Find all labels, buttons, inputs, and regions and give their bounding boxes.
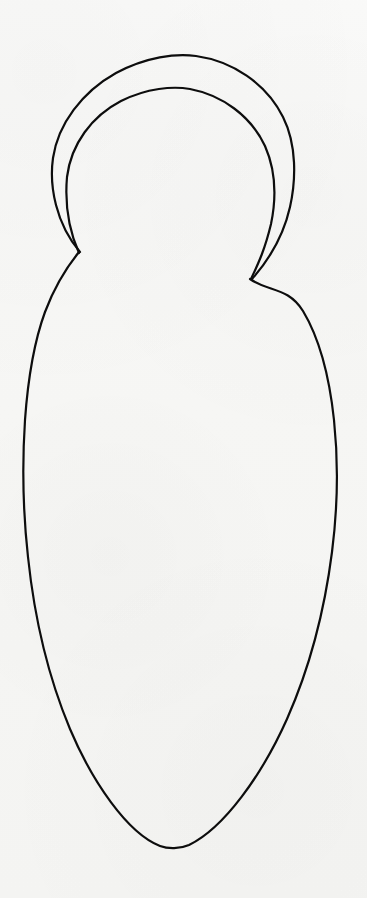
drawing-canvas: Hand-drawn figure outline: [0, 0, 367, 898]
inner-head-arc: [66, 88, 274, 279]
body-outline: [23, 252, 336, 848]
figure-line-drawing: Hand-drawn figure outline: [0, 0, 367, 898]
ink-stroke-group: [23, 55, 336, 848]
